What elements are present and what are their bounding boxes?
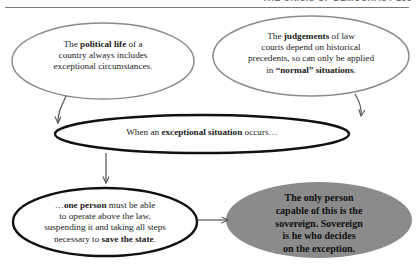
premise-judgements-text: The judgements of lawcourts depend on hi… [220, 31, 402, 76]
premise-political-life-text: The political life of acountry always in… [22, 39, 184, 73]
consequence-one-person-text: …one person must be ableto operate above… [18, 200, 192, 245]
conclusion-sovereign-text: The only personcapable of this is thesov… [240, 192, 398, 256]
diagram-page: THE CRISIS OF DEMOCRACY 153 The politica… [0, 0, 416, 272]
condition-exceptional-situation-text: When an exceptional situation occurs… [70, 127, 334, 138]
arrow-premise1-to-condition [58, 96, 66, 123]
arrow-premise2-to-condition [355, 94, 361, 116]
